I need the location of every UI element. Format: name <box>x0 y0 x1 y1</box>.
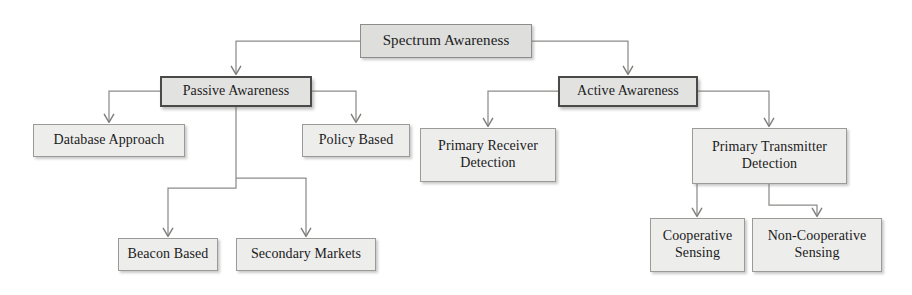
node-label-database-approach: Database Approach <box>50 132 169 149</box>
node-label-beacon-based: Beacon Based <box>124 246 213 263</box>
node-spectrum-awareness[interactable]: Spectrum Awareness <box>360 24 532 58</box>
node-label-active-awareness: Active Awareness <box>573 83 683 100</box>
node-policy-based[interactable]: Policy Based <box>302 124 410 157</box>
node-secondary-markets[interactable]: Secondary Markets <box>236 238 376 271</box>
node-cooperative-sensing[interactable]: Cooperative Sensing <box>650 218 745 272</box>
node-label-policy-based: Policy Based <box>315 132 398 149</box>
edge-passive-to-database <box>109 91 160 122</box>
node-primary-receiver-detection[interactable]: Primary Receiver Detection <box>420 128 556 182</box>
spectrum-awareness-diagram: Spectrum Awareness Passive Awareness Act… <box>0 0 912 295</box>
node-label-primary-transmitter-detection: Primary Transmitter Detection <box>708 139 831 172</box>
node-label-non-cooperative-sensing: Non-Cooperative Sensing <box>764 228 871 261</box>
edge-passive-to-policy <box>312 91 356 122</box>
edge-transmitter-to-non-cooperative <box>769 184 817 216</box>
node-label-passive-awareness: Passive Awareness <box>179 83 294 100</box>
node-passive-awareness[interactable]: Passive Awareness <box>160 76 312 107</box>
edge-passive-to-secondary <box>236 178 306 236</box>
edge-root-to-passive <box>236 41 360 74</box>
edge-active-to-primary-receiver <box>488 91 558 126</box>
node-label-secondary-markets: Secondary Markets <box>247 246 365 263</box>
node-non-cooperative-sensing[interactable]: Non-Cooperative Sensing <box>752 218 882 272</box>
node-primary-transmitter-detection[interactable]: Primary Transmitter Detection <box>692 128 847 184</box>
node-database-approach[interactable]: Database Approach <box>33 124 185 157</box>
node-label-primary-receiver-detection: Primary Receiver Detection <box>434 138 542 171</box>
node-label-spectrum-awareness: Spectrum Awareness <box>379 32 514 50</box>
edge-root-to-active <box>532 41 628 74</box>
node-label-cooperative-sensing: Cooperative Sensing <box>659 228 737 261</box>
node-active-awareness[interactable]: Active Awareness <box>558 76 698 107</box>
edge-active-to-primary-transmitter <box>698 91 769 126</box>
node-beacon-based[interactable]: Beacon Based <box>118 238 218 271</box>
